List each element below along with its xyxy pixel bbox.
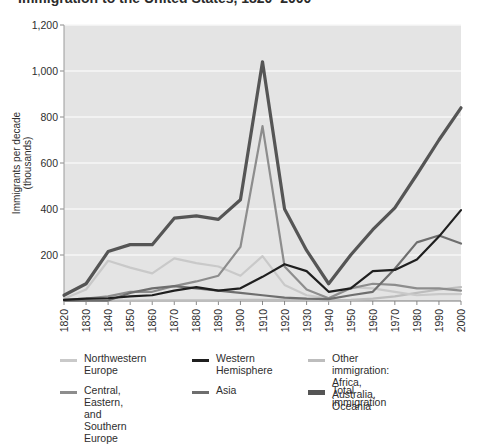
svg-text:1880: 1880 (190, 309, 202, 333)
chart-legend: Northwestern EuropeCentral, Eastern, and… (0, 352, 478, 421)
legend-swatch-icon (308, 390, 325, 395)
svg-text:1870: 1870 (168, 309, 180, 333)
x-axis-tick-label: 1890 (212, 309, 224, 333)
svg-text:1930: 1930 (301, 309, 313, 333)
legend-label: Northwestern Europe (84, 352, 146, 376)
x-axis-tick-label: 2000 (455, 309, 467, 333)
x-axis-tick-label: 1970 (389, 309, 401, 333)
svg-text:Immigrants per decade: Immigrants per decade (11, 111, 22, 214)
svg-text:1890: 1890 (212, 309, 224, 333)
y-axis-tick-label: 400 (40, 203, 58, 215)
y-axis-tick-label: 1,000 (32, 65, 58, 77)
legend-swatch-icon (192, 359, 209, 362)
legend-label: Central, Eastern, and Southern Europe (84, 384, 127, 444)
x-axis-tick-label: 1840 (102, 309, 114, 333)
x-axis-tick-label: 1930 (301, 309, 313, 333)
x-axis-tick-label: 1830 (80, 309, 92, 333)
x-axis-tick-label: 1910 (257, 309, 269, 333)
x-axis-tick-label: 1980 (411, 309, 423, 333)
x-axis-tick-label: 1820 (58, 309, 70, 333)
svg-text:1970: 1970 (389, 309, 401, 333)
x-axis-tick-label: 1860 (146, 309, 158, 333)
legend-swatch-icon (60, 391, 77, 394)
svg-text:1830: 1830 (80, 309, 92, 333)
legend-swatch-icon (308, 359, 325, 362)
x-axis-tick-label: 1850 (124, 309, 136, 333)
y-axis-tick-label: 600 (40, 157, 58, 169)
legend-swatch-icon (60, 359, 77, 362)
y-axis-title: Immigrants per decade(thousands) (11, 111, 33, 214)
x-axis-tick-label: 1960 (367, 309, 379, 333)
svg-text:(thousands): (thousands) (22, 137, 33, 190)
y-axis-tick-label: 800 (40, 111, 58, 123)
svg-text:1920: 1920 (279, 309, 291, 333)
x-axis-tick-label: 1990 (433, 309, 445, 333)
x-axis-tick-label: 1880 (190, 309, 202, 333)
svg-text:1990: 1990 (433, 309, 445, 333)
svg-text:1850: 1850 (124, 309, 136, 333)
legend-label: Western Hemisphere (216, 352, 273, 376)
svg-text:1860: 1860 (146, 309, 158, 333)
svg-text:1950: 1950 (345, 309, 357, 333)
svg-text:1840: 1840 (102, 309, 114, 333)
y-axis-tick-label: 200 (40, 249, 58, 261)
x-axis-tick-label: 1920 (279, 309, 291, 333)
x-axis-tick-label: 1950 (345, 309, 357, 333)
x-axis-tick-label: 1900 (234, 309, 246, 333)
svg-text:1980: 1980 (411, 309, 423, 333)
svg-text:1820: 1820 (58, 309, 70, 333)
legend-label: Asia (216, 384, 236, 396)
svg-text:1900: 1900 (234, 309, 246, 333)
y-axis-tick-label: 1,200 (32, 19, 58, 31)
svg-text:1960: 1960 (367, 309, 379, 333)
legend-swatch-icon (192, 391, 209, 394)
svg-text:2000: 2000 (455, 309, 467, 333)
svg-text:1940: 1940 (323, 309, 335, 333)
legend-label: Total immigration (332, 384, 386, 408)
svg-text:1910: 1910 (257, 309, 269, 333)
x-axis-tick-label: 1940 (323, 309, 335, 333)
x-axis-tick-label: 1870 (168, 309, 180, 333)
